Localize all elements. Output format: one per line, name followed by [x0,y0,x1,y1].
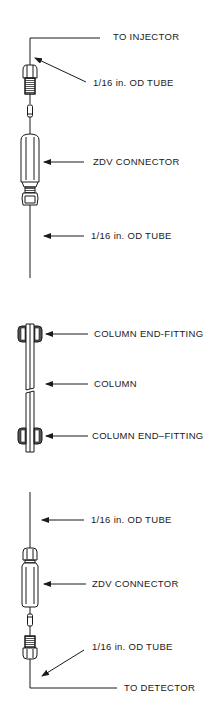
inlet-male-nut [23,65,37,104]
label-tube-bottom-1: 1/16 in. OD TUBE [91,515,172,525]
arrow-tube-bottom-2 [42,650,84,676]
label-to-detector: TO DETECTOR [124,683,195,693]
diagram-drawing [0,0,224,711]
label-tube-bottom-2: 1/16 in. OD TUBE [92,642,173,652]
zdv-connector-top [21,134,39,205]
label-end-fitting-bottom: COLUMN END–FITTING [92,431,204,441]
label-column: COLUMN [94,379,137,389]
plumbing-diagram: TO INJECTOR 1/16 in. OD TUBE ZDV CONNECT… [0,0,224,711]
label-end-fitting-top: COLUMN END-FITTING [94,329,203,339]
inlet-tube [30,38,100,66]
label-zdv-top: ZDV CONNECTOR [93,157,180,167]
label-tube-top-2: 1/16 in. OD TUBE [91,231,172,241]
label-to-injector: TO INJECTOR [113,32,179,42]
label-zdv-bottom: ZDV CONNECTOR [92,579,179,589]
outlet-tube [30,659,117,688]
outlet-male-nut [23,636,37,659]
inlet-ferrule [28,105,33,134]
outlet-ferrule [28,614,33,636]
label-tube-top-1: 1/16 in. OD TUBE [93,78,174,88]
column-tube [26,324,34,452]
zdv-connector-bottom [22,548,38,614]
arrow-tube-top-1 [35,58,86,82]
